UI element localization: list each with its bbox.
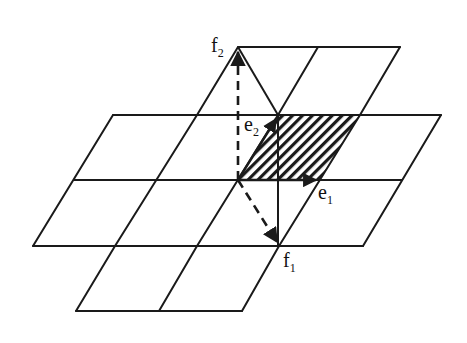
- grid-slanted-line: [360, 47, 400, 115]
- grid-slanted-line: [242, 246, 279, 311]
- grid-slanted-line: [278, 47, 318, 115]
- lattice-diagram: f2 e2 e1 f1: [0, 0, 467, 343]
- grid-slanted-line: [76, 246, 115, 311]
- label-f2: f2: [211, 34, 224, 60]
- label-e1: e1: [318, 181, 333, 207]
- grid-slanted-line: [159, 246, 197, 311]
- f1-vector: [238, 180, 277, 242]
- label-f1: f1: [283, 249, 296, 275]
- label-e2: e2: [244, 113, 259, 139]
- f2-to-e2-line: [238, 47, 278, 115]
